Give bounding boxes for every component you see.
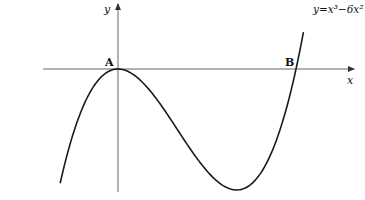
cubic-curve [60, 32, 303, 190]
cubic-graph: y x A B y=x³−6x² [0, 0, 365, 200]
equation-label: y=x³−6x² [312, 3, 363, 15]
point-b-label: B [285, 56, 294, 69]
point-a-label: A [104, 56, 114, 69]
x-axis-label: x [347, 74, 354, 87]
y-axis-label: y [103, 3, 111, 16]
